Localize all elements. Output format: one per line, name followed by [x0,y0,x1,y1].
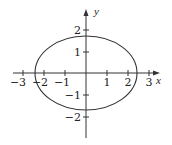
y-axis-arrow-icon [84,9,89,16]
y-axis-label: y [93,5,99,17]
y-tick-label: −2 [65,111,81,124]
y-tick-label: 2 [74,24,81,37]
x-tick-label: −2 [32,76,48,89]
ellipse-plot: −3 −2 −1 1 2 3 2 1 −1 −2 x y [0,0,172,145]
x-tick-label: −1 [54,76,70,89]
x-tick-label: 2 [125,76,132,89]
x-axis-label: x [155,74,161,86]
x-tick-label: 3 [146,76,153,89]
y-tick-label: −1 [65,89,81,102]
x-tick-label: −3 [10,76,26,89]
y-tick-label: 1 [74,46,81,59]
x-tick-label: 1 [104,76,111,89]
